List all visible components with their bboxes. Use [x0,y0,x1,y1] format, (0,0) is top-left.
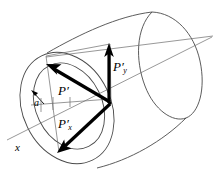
cylinder-bottom-edge [97,118,186,168]
label-y-component-vector: P′y [113,60,127,75]
figure-canvas: P′ P′x P′y a x [0,0,219,175]
label-resultant-vector: P′ [58,84,69,97]
cylinder-far-cap [139,12,203,119]
vector-origin-vertex [108,101,111,104]
label-y-component-text: P [113,59,121,74]
label-resultant-prime: ′ [66,83,69,98]
label-axis-x: x [15,142,20,153]
cylinder-body [47,12,202,168]
label-x-component-text: P [58,116,66,131]
centre-radius-line [31,99,110,105]
label-y-component-subscript: y [123,66,127,75]
label-resultant-text: P [58,83,66,98]
axis-guide-line-upper [46,36,213,57]
near-end-cap-group [2,37,132,175]
outer-circle [2,37,132,175]
cylinder-vector-diagram [0,0,219,175]
label-angle: a [34,98,39,108]
angle-arrowhead-icon [31,90,38,96]
label-x-component-subscript: x [68,123,72,132]
cylinder-top-edge [47,12,152,53]
label-x-component-vector: P′x [58,117,72,132]
